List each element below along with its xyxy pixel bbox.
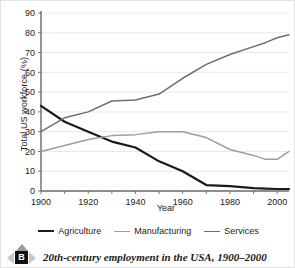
legend-label: Agriculture (58, 226, 101, 236)
plot-svg: 0102030405060708090190019201940196019802… (1, 1, 295, 221)
badge-letter: B (15, 251, 28, 264)
line-chart: 0102030405060708090190019201940196019802… (1, 1, 295, 221)
triangle-right-icon (29, 252, 36, 264)
y-tick-label: 0 (30, 186, 35, 196)
legend-swatch-icon (38, 230, 54, 232)
x-axis-title: Year (41, 203, 291, 213)
y-tick-label: 90 (25, 8, 35, 18)
legend-entry-services[interactable]: Services (204, 226, 259, 236)
triangle-left-icon (7, 252, 14, 264)
legend-entry-agriculture[interactable]: Agriculture (38, 226, 101, 236)
caption-row: B 20th-century employment in the USA, 19… (1, 244, 295, 268)
series-line-manufacturing (41, 132, 289, 160)
series-line-agriculture (41, 106, 289, 189)
y-axis-title: Total US workforce (%) (19, 34, 29, 174)
legend-label: Manufacturing (134, 226, 191, 236)
legend-label: Services (224, 226, 259, 236)
figure-container: 0102030405060708090190019201940196019802… (0, 0, 295, 268)
series-line-services (41, 35, 289, 132)
figure-badge: B (7, 245, 37, 268)
triangle-up-icon (16, 244, 28, 251)
figure-caption: 20th-century employment in the USA, 1900… (43, 251, 267, 263)
legend-swatch-icon (114, 231, 130, 232)
legend-entry-manufacturing[interactable]: Manufacturing (114, 226, 191, 236)
legend-swatch-icon (204, 231, 220, 232)
chart-legend: AgricultureManufacturingServices (1, 223, 295, 239)
